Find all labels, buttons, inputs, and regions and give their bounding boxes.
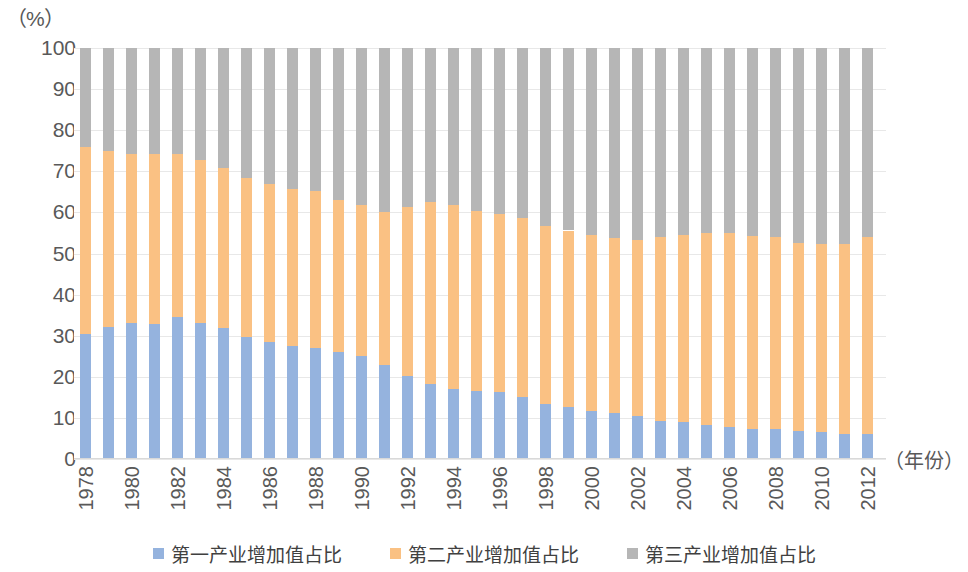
bar-1993[interactable] bbox=[425, 48, 436, 459]
bar-segment-tertiary-2003[interactable] bbox=[655, 48, 666, 237]
bar-segment-tertiary-1994[interactable] bbox=[448, 48, 459, 205]
bar-segment-secondary-1979[interactable] bbox=[103, 151, 114, 328]
bar-segment-tertiary-1993[interactable] bbox=[425, 48, 436, 202]
bar-1997[interactable] bbox=[517, 48, 528, 459]
bar-segment-secondary-1995[interactable] bbox=[471, 211, 482, 391]
bar-segment-tertiary-2010[interactable] bbox=[816, 48, 827, 244]
bar-1985[interactable] bbox=[241, 48, 252, 459]
bar-segment-secondary-1997[interactable] bbox=[517, 218, 528, 398]
bar-segment-primary-1978[interactable] bbox=[80, 334, 91, 459]
bar-segment-primary-2008[interactable] bbox=[770, 429, 781, 459]
bar-segment-secondary-1978[interactable] bbox=[80, 147, 91, 334]
bar-segment-tertiary-2009[interactable] bbox=[793, 48, 804, 243]
bar-segment-primary-1987[interactable] bbox=[287, 346, 298, 459]
bar-1987[interactable] bbox=[287, 48, 298, 459]
bar-segment-tertiary-1983[interactable] bbox=[195, 48, 206, 160]
bar-1984[interactable] bbox=[218, 48, 229, 459]
bar-segment-secondary-2012[interactable] bbox=[862, 237, 873, 434]
bar-segment-secondary-1990[interactable] bbox=[356, 205, 367, 356]
bar-segment-secondary-1984[interactable] bbox=[218, 168, 229, 328]
bar-segment-secondary-2009[interactable] bbox=[793, 243, 804, 431]
bar-segment-primary-1984[interactable] bbox=[218, 328, 229, 459]
bar-1995[interactable] bbox=[471, 48, 482, 459]
bar-segment-secondary-1985[interactable] bbox=[241, 178, 252, 337]
bar-2012[interactable] bbox=[862, 48, 873, 459]
bar-1994[interactable] bbox=[448, 48, 459, 459]
bar-segment-primary-2011[interactable] bbox=[839, 434, 850, 459]
bar-segment-secondary-2003[interactable] bbox=[655, 237, 666, 420]
bar-segment-secondary-1983[interactable] bbox=[195, 160, 206, 323]
legend-item-1[interactable]: 第一产业增加值占比 bbox=[153, 540, 342, 567]
bar-2003[interactable] bbox=[655, 48, 666, 459]
bar-segment-primary-2004[interactable] bbox=[678, 422, 689, 459]
bar-segment-primary-1991[interactable] bbox=[379, 365, 390, 459]
bar-segment-secondary-1982[interactable] bbox=[172, 154, 183, 317]
bar-segment-tertiary-1981[interactable] bbox=[149, 48, 160, 154]
bar-segment-tertiary-1987[interactable] bbox=[287, 48, 298, 189]
bar-1991[interactable] bbox=[379, 48, 390, 459]
bar-segment-tertiary-2007[interactable] bbox=[747, 48, 758, 236]
bar-segment-secondary-2006[interactable] bbox=[724, 233, 735, 427]
bar-segment-secondary-1992[interactable] bbox=[402, 207, 413, 376]
bar-1980[interactable] bbox=[126, 48, 137, 459]
bar-segment-secondary-2000[interactable] bbox=[586, 235, 597, 410]
bar-segment-tertiary-1984[interactable] bbox=[218, 48, 229, 168]
bar-segment-primary-2002[interactable] bbox=[632, 416, 643, 459]
bar-segment-primary-1986[interactable] bbox=[264, 342, 275, 459]
bar-segment-tertiary-2012[interactable] bbox=[862, 48, 873, 237]
bar-segment-primary-1981[interactable] bbox=[149, 324, 160, 459]
bar-segment-tertiary-1978[interactable] bbox=[80, 48, 91, 147]
bar-segment-primary-1999[interactable] bbox=[563, 407, 574, 459]
bar-segment-primary-1979[interactable] bbox=[103, 327, 114, 459]
bar-segment-secondary-1996[interactable] bbox=[494, 214, 505, 391]
bar-segment-secondary-2002[interactable] bbox=[632, 240, 643, 416]
bar-2001[interactable] bbox=[609, 48, 620, 459]
bar-segment-primary-1980[interactable] bbox=[126, 323, 137, 459]
bar-segment-secondary-1998[interactable] bbox=[540, 226, 551, 404]
bar-segment-tertiary-1999[interactable] bbox=[563, 48, 574, 230]
bar-segment-secondary-2005[interactable] bbox=[701, 233, 712, 425]
bar-1986[interactable] bbox=[264, 48, 275, 459]
bar-2011[interactable] bbox=[839, 48, 850, 459]
bar-1989[interactable] bbox=[333, 48, 344, 459]
bar-1983[interactable] bbox=[195, 48, 206, 459]
bar-segment-primary-1998[interactable] bbox=[540, 404, 551, 459]
bar-2007[interactable] bbox=[747, 48, 758, 459]
bar-segment-tertiary-1982[interactable] bbox=[172, 48, 183, 154]
bar-segment-primary-1989[interactable] bbox=[333, 352, 344, 459]
bar-segment-primary-1996[interactable] bbox=[494, 392, 505, 459]
bar-segment-tertiary-2004[interactable] bbox=[678, 48, 689, 235]
bar-1996[interactable] bbox=[494, 48, 505, 459]
bar-segment-primary-1990[interactable] bbox=[356, 356, 367, 459]
bar-segment-tertiary-2006[interactable] bbox=[724, 48, 735, 233]
legend-item-3[interactable]: 第三产业增加值占比 bbox=[627, 540, 816, 567]
bar-segment-secondary-1980[interactable] bbox=[126, 154, 137, 323]
bar-segment-primary-2012[interactable] bbox=[862, 434, 873, 459]
bar-segment-primary-1982[interactable] bbox=[172, 317, 183, 459]
bar-2005[interactable] bbox=[701, 48, 712, 459]
bar-segment-primary-1994[interactable] bbox=[448, 389, 459, 459]
bar-1988[interactable] bbox=[310, 48, 321, 459]
bar-segment-tertiary-1992[interactable] bbox=[402, 48, 413, 207]
bar-segment-tertiary-1990[interactable] bbox=[356, 48, 367, 205]
bar-1979[interactable] bbox=[103, 48, 114, 459]
bar-segment-primary-1983[interactable] bbox=[195, 323, 206, 459]
bar-segment-primary-1985[interactable] bbox=[241, 337, 252, 459]
bar-segment-secondary-1994[interactable] bbox=[448, 205, 459, 389]
bar-2009[interactable] bbox=[793, 48, 804, 459]
bar-segment-tertiary-2001[interactable] bbox=[609, 48, 620, 238]
bar-segment-tertiary-1991[interactable] bbox=[379, 48, 390, 212]
bar-segment-tertiary-2002[interactable] bbox=[632, 48, 643, 240]
bar-segment-secondary-1987[interactable] bbox=[287, 189, 298, 346]
bar-segment-primary-2007[interactable] bbox=[747, 429, 758, 459]
bar-segment-tertiary-1988[interactable] bbox=[310, 48, 321, 191]
bar-segment-secondary-1986[interactable] bbox=[264, 184, 275, 341]
bar-2000[interactable] bbox=[586, 48, 597, 459]
bar-segment-secondary-2010[interactable] bbox=[816, 244, 827, 433]
bar-segment-secondary-2008[interactable] bbox=[770, 237, 781, 429]
bar-1999[interactable] bbox=[563, 48, 574, 459]
bar-segment-secondary-1989[interactable] bbox=[333, 200, 344, 352]
bar-segment-secondary-2001[interactable] bbox=[609, 238, 620, 413]
bar-2010[interactable] bbox=[816, 48, 827, 459]
bar-1990[interactable] bbox=[356, 48, 367, 459]
